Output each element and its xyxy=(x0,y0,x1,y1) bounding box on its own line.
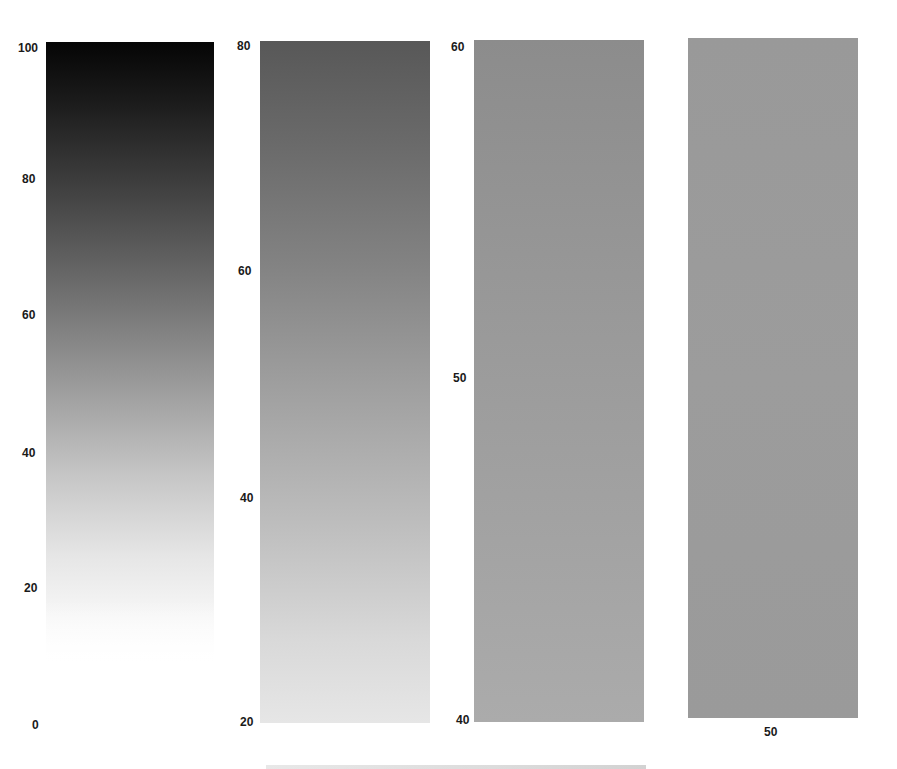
scale-label-50: 50 xyxy=(453,372,466,384)
scale-label-60: 60 xyxy=(451,41,464,53)
scale-label-80: 80 xyxy=(237,40,250,52)
scale-label-20: 20 xyxy=(240,716,253,728)
scale-label-20: 20 xyxy=(24,582,37,594)
scale-label-60: 60 xyxy=(22,309,35,321)
gradient-strip-20-80 xyxy=(260,41,430,723)
bottom-edge-bar xyxy=(266,765,646,769)
scale-label-40: 40 xyxy=(22,447,35,459)
gradient-strip-0-100-fade xyxy=(46,600,214,670)
gradient-strip-0-100 xyxy=(46,42,214,662)
gradient-strip-40-60 xyxy=(474,40,644,722)
scale-label-80: 80 xyxy=(22,173,35,185)
gradient-strip-50 xyxy=(688,38,858,718)
scale-label-40: 40 xyxy=(240,492,253,504)
scale-label-60: 60 xyxy=(238,265,251,277)
scale-label-100: 100 xyxy=(18,42,38,54)
scale-label-50: 50 xyxy=(764,726,777,738)
scale-label-40: 40 xyxy=(456,714,469,726)
scale-label-0: 0 xyxy=(32,719,39,731)
